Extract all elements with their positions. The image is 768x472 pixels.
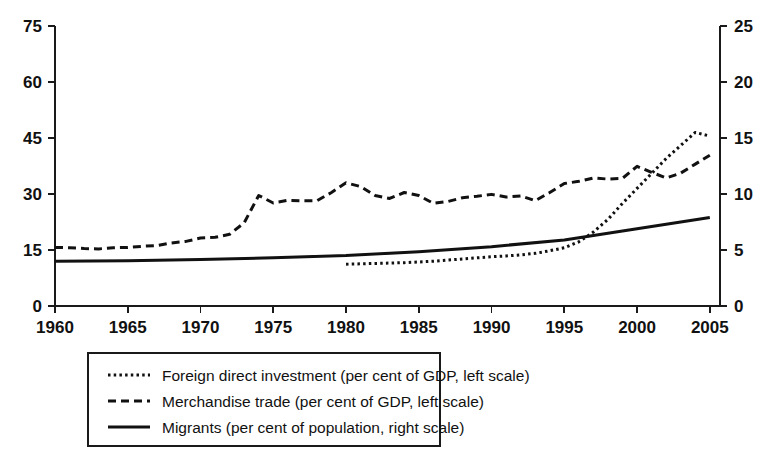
series-line-2 [55, 155, 710, 249]
chart-canvas: 0153045607505101520251960196519701975198… [0, 0, 768, 472]
y2-axis-tick-label: 5 [734, 241, 743, 260]
legend-label-2: Merchandise trade (per cent of GDP, left… [162, 393, 484, 410]
y-axis-tick-label: 75 [23, 17, 42, 36]
x-axis-tick-label: 1965 [109, 318, 147, 337]
y-axis-tick-label: 60 [23, 73, 42, 92]
y-axis-tick-label: 15 [23, 241, 42, 260]
x-axis-tick-label: 1970 [182, 318, 220, 337]
series-line-3 [55, 218, 710, 262]
legend-label-1: Foreign direct investment (per cent of G… [162, 367, 530, 384]
series-group [55, 132, 710, 264]
y-axis-tick-label: 45 [23, 129, 42, 148]
legend-group: Foreign direct investment (per cent of G… [88, 353, 530, 446]
y2-axis-tick-label: 20 [734, 73, 753, 92]
x-axis-tick-label: 1990 [473, 318, 511, 337]
y-axis-tick-label: 0 [33, 297, 42, 316]
y-axis-tick-label: 30 [23, 185, 42, 204]
axes-group: 0153045607505101520251960196519701975198… [23, 17, 753, 337]
y2-axis-tick-label: 10 [734, 185, 753, 204]
x-axis-tick-label: 1975 [254, 318, 292, 337]
y2-axis-tick-label: 25 [734, 17, 753, 36]
y2-axis-tick-label: 0 [734, 297, 743, 316]
x-axis-tick-label: 1960 [36, 318, 74, 337]
chart-figure: 0153045607505101520251960196519701975198… [0, 0, 768, 472]
x-axis-tick-label: 2000 [618, 318, 656, 337]
x-axis-tick-label: 1980 [327, 318, 365, 337]
x-axis-tick-label: 2005 [691, 318, 729, 337]
x-axis-tick-label: 1995 [545, 318, 583, 337]
legend-label-3: Migrants (per cent of population, right … [162, 419, 464, 436]
y2-axis-tick-label: 15 [734, 129, 753, 148]
x-axis-tick-label: 1985 [400, 318, 438, 337]
